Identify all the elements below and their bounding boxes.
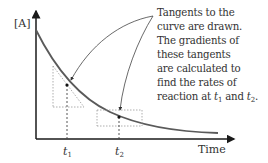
annotation-line: reaction at t1 and t2. — [157, 90, 268, 107]
annotation-and: and — [222, 91, 247, 102]
annotation-line: are calculated to — [157, 62, 268, 76]
tangent-guide-t1 — [53, 66, 84, 107]
tangent-point-t1 — [65, 83, 68, 86]
annotation-line: curve are drawn. — [157, 20, 268, 34]
callout-arrow-t2 — [120, 16, 153, 110]
annotation-period: . — [255, 91, 258, 102]
annotation-line: Tangents to the — [157, 6, 268, 20]
annotation-line: these tangents — [157, 48, 268, 62]
annotation-text: Tangents to the curve are drawn. The gra… — [157, 6, 268, 107]
annotation-line: The gradients of — [157, 34, 268, 48]
t2-label: t2 — [115, 145, 124, 159]
tangent-point-t2 — [117, 115, 120, 118]
y-axis-label: [A] — [14, 17, 31, 30]
annotation-prefix: reaction at — [157, 91, 214, 102]
callout-arrow-t1 — [71, 16, 153, 80]
x-axis-label: Time — [198, 143, 226, 156]
t1-label: t1 — [63, 145, 72, 159]
annotation-line: find the rates of — [157, 76, 268, 90]
